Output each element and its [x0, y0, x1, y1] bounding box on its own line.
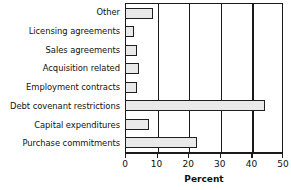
category-label: Acquisition related — [0, 59, 123, 78]
bar-row — [126, 115, 282, 134]
x-axis-tick — [157, 153, 158, 158]
x-axis-tick-labels: 01020304050 — [125, 160, 283, 172]
bar-row — [126, 78, 282, 97]
x-axis-tick-label: 50 — [277, 160, 288, 169]
category-label: Capital expenditures — [0, 116, 123, 135]
category-label: Sales agreements — [0, 41, 123, 60]
bar-capital-expenditures — [125, 119, 149, 130]
category-label: Purchase commitments — [0, 134, 123, 153]
plot-area — [125, 3, 283, 153]
bar-employment-contracts — [125, 82, 137, 93]
category-label: Other — [0, 3, 123, 22]
bar-other — [125, 8, 153, 19]
x-axis-tick-label: 10 — [151, 160, 162, 169]
x-axis-line — [125, 153, 283, 154]
bar-acquisition-related — [125, 63, 139, 74]
x-axis-tick — [220, 153, 221, 158]
x-axis-tick — [188, 153, 189, 158]
category-label: Employment contracts — [0, 78, 123, 97]
bar-sales-agreements — [125, 45, 138, 56]
x-axis-tick — [251, 153, 252, 158]
bar-row — [126, 41, 282, 60]
x-axis-title: Percent — [125, 175, 283, 184]
bar-row — [126, 60, 282, 79]
bar-purchase-commitments — [125, 137, 198, 148]
bar-row — [126, 4, 282, 23]
bar-row — [126, 97, 282, 116]
bar-row — [126, 23, 282, 42]
x-axis-tick — [282, 153, 283, 158]
bar-debt-covenant-restrictions — [125, 100, 266, 111]
x-axis-tick-label: 20 — [182, 160, 193, 169]
category-axis: Other Licensing agreements Sales agreeme… — [0, 3, 123, 153]
bar-series — [126, 4, 282, 152]
x-axis-tick-label: 0 — [122, 160, 128, 169]
category-label: Licensing agreements — [0, 22, 123, 41]
bar-row — [126, 134, 282, 153]
category-label: Debt covenant restrictions — [0, 97, 123, 116]
bar-licensing-agreements — [125, 26, 134, 37]
x-axis — [125, 153, 283, 159]
x-axis-tick — [125, 153, 126, 158]
bar-chart: Other Licensing agreements Sales agreeme… — [0, 0, 291, 190]
x-axis-tick-label: 30 — [214, 160, 225, 169]
x-axis-tick-label: 40 — [246, 160, 257, 169]
